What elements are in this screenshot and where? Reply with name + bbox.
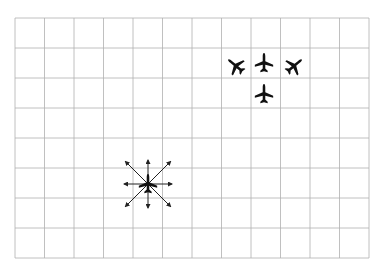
grid <box>15 18 369 258</box>
airplane-icon <box>281 52 308 78</box>
grid-diagram <box>0 0 381 274</box>
airplane-icon <box>222 52 249 78</box>
direction-arrow-icon <box>125 161 148 184</box>
airplane-icon <box>255 53 273 72</box>
direction-arrow-icon <box>148 161 171 184</box>
aircraft-layer <box>139 52 308 193</box>
airplane-icon <box>255 84 273 103</box>
direction-arrow-icon <box>148 184 171 207</box>
direction-arrow-icon <box>125 184 148 207</box>
